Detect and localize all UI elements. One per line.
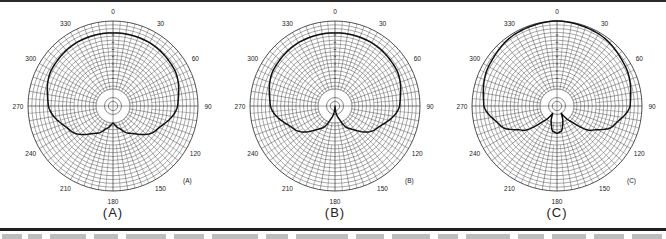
angle-tick-label: 0 xyxy=(111,8,115,15)
panel-corner-label: (B) xyxy=(405,177,414,185)
angle-tick-label: 330 xyxy=(504,20,515,27)
polar-plots: 0306090120150180210240270300330(A) 03060… xyxy=(0,0,666,239)
angle-tick-label: 210 xyxy=(504,185,515,192)
angle-tick-label: 240 xyxy=(247,150,258,157)
angle-tick-label: 60 xyxy=(192,55,200,62)
angle-tick-label: 120 xyxy=(190,150,201,157)
angle-tick-label: 300 xyxy=(25,55,36,62)
angle-tick-label: 330 xyxy=(60,20,71,27)
polar-plot-a: 0306090120150180210240270300330(A) xyxy=(13,8,212,205)
angle-tick-label: 60 xyxy=(414,55,422,62)
polar-plot-b: 0306090120150180210240270300330(B) xyxy=(235,8,434,205)
angle-tick-label: 60 xyxy=(636,55,644,62)
angle-tick-label: 30 xyxy=(601,20,609,27)
caption-cut-off xyxy=(0,234,666,239)
angle-tick-label: 270 xyxy=(13,103,24,110)
angle-tick-label: 0 xyxy=(333,8,337,15)
panel-title-b: (B) xyxy=(315,205,355,220)
angle-tick-label: 120 xyxy=(634,150,645,157)
angle-tick-label: 150 xyxy=(377,185,388,192)
angle-tick-label: 240 xyxy=(469,150,480,157)
angle-tick-label: 270 xyxy=(235,103,246,110)
angle-tick-label: 210 xyxy=(282,185,293,192)
angle-tick-label: 270 xyxy=(457,103,468,110)
angle-tick-label: 330 xyxy=(282,20,293,27)
angle-tick-label: 180 xyxy=(108,198,119,205)
angle-tick-label: 150 xyxy=(155,185,166,192)
panel-title-a: (A) xyxy=(93,205,133,220)
angle-tick-label: 150 xyxy=(599,185,610,192)
angle-tick-label: 90 xyxy=(204,103,212,110)
panel-corner-label: (C) xyxy=(627,177,636,185)
angle-tick-label: 180 xyxy=(330,198,341,205)
angle-tick-label: 240 xyxy=(25,150,36,157)
angle-tick-label: 0 xyxy=(555,8,559,15)
panel-corner-label: (A) xyxy=(183,177,192,185)
angle-tick-label: 30 xyxy=(379,20,387,27)
polar-plot-c: 0306090120150180210240270300330(C) xyxy=(457,8,656,205)
angle-tick-label: 300 xyxy=(469,55,480,62)
angle-tick-label: 300 xyxy=(247,55,258,62)
angle-tick-label: 30 xyxy=(157,20,165,27)
angle-tick-label: 90 xyxy=(426,103,434,110)
angle-tick-label: 90 xyxy=(648,103,656,110)
angle-tick-label: 210 xyxy=(60,185,71,192)
panel-title-c: (C) xyxy=(537,205,577,220)
angle-tick-label: 180 xyxy=(552,198,563,205)
bottom-rule xyxy=(0,228,666,231)
angle-tick-label: 120 xyxy=(412,150,423,157)
